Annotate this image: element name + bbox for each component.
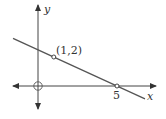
y-axis-label: y (43, 3, 51, 16)
x-tick-label-5: 5 (113, 89, 120, 102)
coordinate-plane: y x (1,2) 5 (0, 0, 166, 119)
x-axis-label: x (147, 90, 154, 103)
point-5-0-marker-icon (115, 84, 119, 88)
point-1-2-label: (1,2) (56, 44, 82, 57)
